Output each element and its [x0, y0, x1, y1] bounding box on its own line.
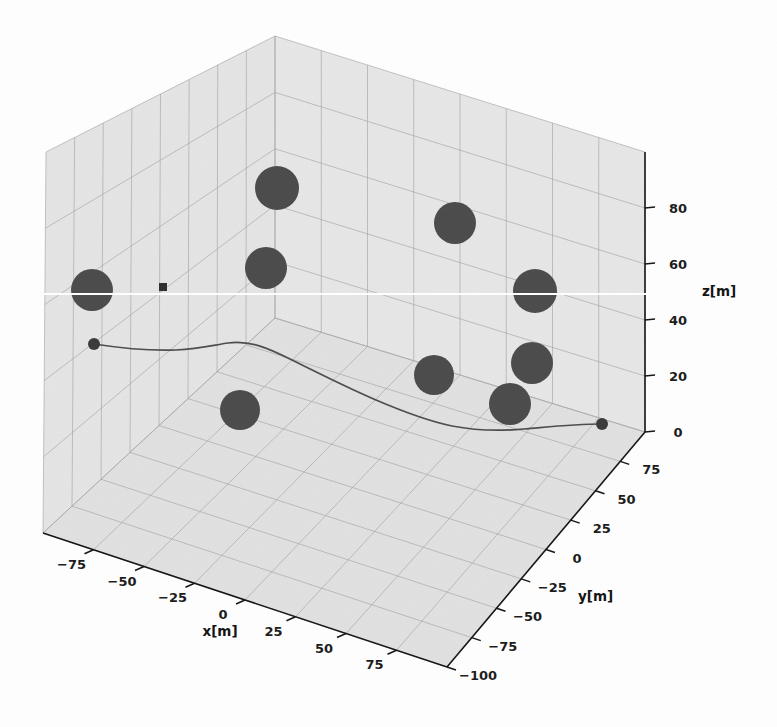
paper-grain-overlay	[0, 0, 777, 727]
figure-canvas: −75−50−250255075−100−75−50−2502550750204…	[0, 0, 777, 727]
plot-3d-scene: −75−50−250255075−100−75−50−2502550750204…	[0, 0, 777, 727]
